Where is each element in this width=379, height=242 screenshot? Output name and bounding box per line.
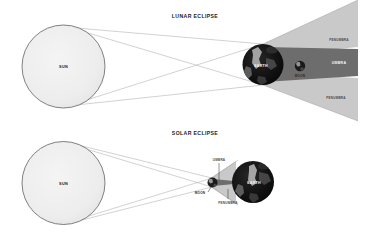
solar-earth-label: EARTH bbox=[247, 181, 261, 185]
lunar-sun-body: SUN bbox=[22, 25, 105, 108]
lunar-eclipse-title: LUNAR ECLIPSE bbox=[172, 13, 219, 19]
solar-moon-label: MOON bbox=[195, 191, 206, 195]
lunar-earth-label: EARTH bbox=[254, 64, 268, 68]
solar-penumbra-label: PENUMBRA bbox=[218, 201, 238, 205]
lunar-moon-label: MOON bbox=[295, 74, 306, 78]
eclipse-diagram-svg: SUN EARTH bbox=[0, 0, 379, 242]
lunar-penumbra-lower-label: PENUMBRA bbox=[326, 96, 346, 100]
lunar-moon-body: MOON bbox=[295, 61, 306, 78]
solar-sun-body: SUN bbox=[22, 142, 105, 225]
solar-sun-label: SUN bbox=[59, 182, 68, 186]
lunar-penumbra-upper-label: PENUMBRA bbox=[329, 38, 349, 42]
lunar-earth-body: EARTH bbox=[243, 44, 284, 85]
lunar-sun-label: SUN bbox=[59, 65, 68, 69]
lunar-umbra-label: UMBRA bbox=[332, 61, 347, 65]
solar-earth-body: EARTH bbox=[232, 161, 274, 203]
eclipse-diagram-canvas: SUN EARTH bbox=[0, 0, 379, 242]
solar-umbra-label: UMBRA bbox=[213, 158, 226, 162]
solar-moon-body bbox=[208, 178, 218, 188]
solar-eclipse-title: SOLAR ECLIPSE bbox=[172, 130, 219, 136]
